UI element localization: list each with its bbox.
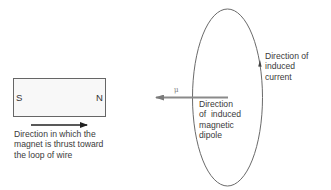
bar-magnet (14, 79, 106, 117)
thrust-direction-label: Direction in which the magnet is thrust … (14, 129, 103, 160)
induced-current-label: Direction of induced current (265, 51, 308, 82)
induced-dipole-label: Direction of induced magnetic dipole (199, 99, 241, 141)
induction-diagram (0, 0, 331, 190)
south-pole-label: S (16, 92, 22, 103)
dipole-symbol-label: μ (174, 86, 179, 94)
north-pole-label: N (96, 92, 103, 103)
induced-current-arrow-icon (258, 60, 261, 67)
